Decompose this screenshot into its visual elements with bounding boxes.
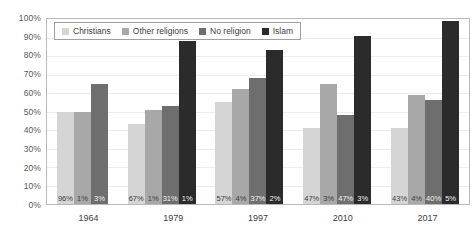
y-axis: 100%90%80%70%60%50%40%30%20%10%0% xyxy=(0,18,45,205)
y-axis-tick-label: 0% xyxy=(29,200,42,210)
x-axis-tick-label: 1997 xyxy=(248,207,268,223)
legend-item[interactable]: Other religions xyxy=(122,26,188,36)
bar: 47% xyxy=(337,115,354,204)
bar: 2% xyxy=(266,50,283,204)
legend-label: No religion xyxy=(210,26,251,36)
y-axis-tick-label: 70% xyxy=(24,69,41,79)
y-axis-tick-label: 20% xyxy=(24,163,41,173)
bar: 31% xyxy=(162,106,179,204)
bar: 4% xyxy=(408,95,425,204)
y-axis-tick-label: 40% xyxy=(24,125,41,135)
bar-value-label: 57% xyxy=(216,195,231,203)
bar-value-label: 43% xyxy=(392,195,407,203)
bar: 43% xyxy=(391,128,408,204)
bar-value-label: 1% xyxy=(77,195,88,203)
bar: 47% xyxy=(303,128,320,204)
legend-swatch-icon xyxy=(262,28,269,35)
legend-item[interactable]: No religion xyxy=(199,26,251,36)
bars-layer: 96%1%3%67%1%31%1%57%4%37%2%47%3%47%3%43%… xyxy=(47,19,469,204)
bar-group: 67%1%31%1% xyxy=(128,19,196,204)
bar-value-label: 1% xyxy=(182,195,193,203)
y-axis-tick-label: 30% xyxy=(24,144,41,154)
bar-value-label: 3% xyxy=(94,195,105,203)
bar-value-label: 3% xyxy=(323,195,334,203)
bar: 1% xyxy=(74,112,91,205)
bar: 1% xyxy=(145,110,162,204)
bar-value-label: 31% xyxy=(163,195,178,203)
bar: 96% xyxy=(57,112,74,205)
y-axis-tick-label: 80% xyxy=(24,50,41,60)
bar: 40% xyxy=(425,100,442,204)
bar: 1% xyxy=(179,41,196,204)
bar: 4% xyxy=(232,89,249,204)
plot-area: 96%1%3%67%1%31%1%57%4%37%2%47%3%47%3%43%… xyxy=(46,18,470,205)
bar: 3% xyxy=(91,84,108,204)
bar-value-label: 4% xyxy=(411,195,422,203)
y-axis-tick-label: 50% xyxy=(24,107,41,117)
legend-label: Other religions xyxy=(133,26,188,36)
bar-value-label: 40% xyxy=(426,195,441,203)
bar-group: 47%3%47%3% xyxy=(303,19,371,204)
bar-value-label: 2% xyxy=(270,195,281,203)
bar-value-label: 96% xyxy=(58,195,73,203)
bar-value-label: 37% xyxy=(250,195,265,203)
bar-value-label: 5% xyxy=(445,195,456,203)
bar-group: 43%4%40%5% xyxy=(391,19,459,204)
y-axis-tick-label: 10% xyxy=(24,181,41,191)
bar-group: 96%1%3% xyxy=(57,19,108,204)
bar-value-label: 1% xyxy=(148,195,159,203)
bar-value-label: 47% xyxy=(304,195,319,203)
legend-label: Christians xyxy=(73,26,111,36)
bar: 57% xyxy=(215,102,232,204)
bar-value-label: 47% xyxy=(338,195,353,203)
chart-legend: ChristiansOther religionsNo religionIsla… xyxy=(54,22,301,40)
bar-value-label: 67% xyxy=(129,195,144,203)
bar: 5% xyxy=(442,21,459,204)
bar: 67% xyxy=(128,124,145,204)
y-axis-tick-label: 90% xyxy=(24,32,41,42)
legend-swatch-icon xyxy=(199,28,206,35)
bar: 37% xyxy=(249,78,266,204)
legend-swatch-icon xyxy=(122,28,129,35)
bar: 3% xyxy=(320,84,337,204)
legend-swatch-icon xyxy=(62,28,69,35)
x-axis-tick-label: 1964 xyxy=(78,207,98,223)
legend-item[interactable]: Christians xyxy=(62,26,111,36)
bar-value-label: 4% xyxy=(236,195,247,203)
x-axis-tick-label: 1979 xyxy=(163,207,183,223)
bar-group: 57%4%37%2% xyxy=(215,19,283,204)
y-axis-tick-label: 100% xyxy=(19,13,41,23)
x-axis: 19641979199720102017 xyxy=(46,207,470,229)
x-axis-tick-label: 2017 xyxy=(418,207,438,223)
legend-item[interactable]: Islam xyxy=(262,26,293,36)
bar-chart: 100%90%80%70%60%50%40%30%20%10%0% 96%1%3… xyxy=(0,0,473,241)
legend-label: Islam xyxy=(273,26,293,36)
bar-value-label: 3% xyxy=(357,195,368,203)
bar: 3% xyxy=(354,36,371,204)
y-axis-tick-label: 60% xyxy=(24,88,41,98)
x-axis-tick-label: 2010 xyxy=(333,207,353,223)
